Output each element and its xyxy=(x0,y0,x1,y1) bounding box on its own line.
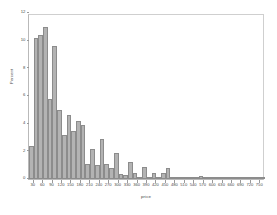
x-axis-title: price xyxy=(28,194,264,199)
x-tick-label: 600 xyxy=(209,183,216,187)
x-tick-label: 540 xyxy=(190,183,197,187)
x-tick-label: 750 xyxy=(256,183,263,187)
x-tick-label: 240 xyxy=(95,183,102,187)
x-tick-label: 390 xyxy=(143,183,150,187)
x-tick-label: 60 xyxy=(40,183,45,187)
x-tick-label: 660 xyxy=(228,183,235,187)
x-tick-label: 330 xyxy=(124,183,131,187)
x-tick-label: 360 xyxy=(133,183,140,187)
y-tick-label: 12 xyxy=(21,10,26,14)
y-tick-label: 0 xyxy=(23,176,25,180)
y-tick-label: 2 xyxy=(23,149,25,153)
x-tick-label: 210 xyxy=(86,183,93,187)
x-tick-label: 480 xyxy=(171,183,178,187)
x-tick-label: 630 xyxy=(218,183,225,187)
x-tick-label: 450 xyxy=(161,183,168,187)
y-tick-label: 10 xyxy=(21,38,26,42)
x-tick-label: 570 xyxy=(199,183,206,187)
x-tick-label: 720 xyxy=(246,183,253,187)
histogram-bar xyxy=(260,177,265,179)
x-tick-label: 690 xyxy=(237,183,244,187)
bar-series xyxy=(29,15,263,179)
x-tick-label: 420 xyxy=(152,183,159,187)
x-tick-label: 270 xyxy=(105,183,112,187)
y-axis-title: Percent xyxy=(9,44,14,84)
plot-area: 024681012 xyxy=(28,14,264,180)
x-tick-label: 510 xyxy=(180,183,187,187)
x-tick-label: 90 xyxy=(49,183,54,187)
histogram-chart: Percent 024681012 3060901201501802102402… xyxy=(0,0,277,215)
y-tick-label: 8 xyxy=(23,66,25,70)
y-tick-label: 6 xyxy=(23,93,25,97)
y-tick: 12 xyxy=(27,12,30,13)
x-tick-label: 150 xyxy=(67,183,74,187)
x-tick-label: 180 xyxy=(76,183,83,187)
x-tick-label: 30 xyxy=(30,183,35,187)
x-tick-label: 120 xyxy=(58,183,65,187)
x-tick-label: 300 xyxy=(114,183,121,187)
y-tick-label: 4 xyxy=(23,121,25,125)
